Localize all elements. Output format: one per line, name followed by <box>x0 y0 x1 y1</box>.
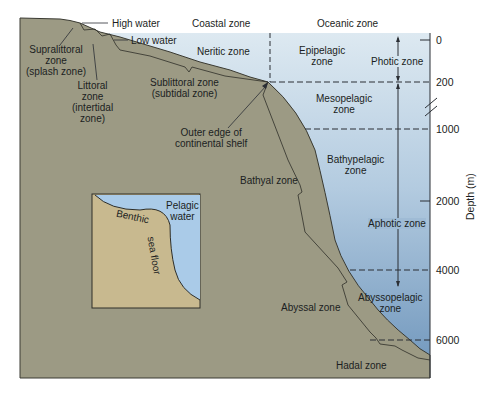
mesopelagic-label: Mesopelagic zone <box>316 93 372 115</box>
sublittoral-label: Sublittoral zone (subtidal zone) <box>150 77 219 99</box>
depth-tick-4000: 4000 <box>436 264 459 276</box>
depth-tick-2000: 2000 <box>436 195 459 207</box>
photic-zone-label: Photic zone <box>371 56 423 67</box>
epipelagic-label: Epipelagic zone <box>299 45 345 67</box>
oceanic-zone-header: Oceanic zone <box>317 18 378 29</box>
coastal-zone-header: Coastal zone <box>192 18 250 29</box>
hadal-zone-label: Hadal zone <box>336 360 387 371</box>
abyssal-zone-label: Abyssal zone <box>281 302 340 313</box>
bathypelagic-label: Bathypelagic zone <box>327 154 384 176</box>
depth-tick-200: 200 <box>436 76 454 88</box>
aphotic-zone-label: Aphotic zone <box>368 218 426 229</box>
depth-tick-1000: 1000 <box>436 123 459 135</box>
depth-axis-title: Depth (m) <box>464 173 476 220</box>
abyssopelagic-label: Abyssopelagic zone <box>358 292 422 314</box>
supralittoral-label: Supralittoral zone (splash zone) <box>26 44 86 77</box>
depth-tick-0: 0 <box>436 34 442 46</box>
depth-tick-6000: 6000 <box>436 334 459 346</box>
low-water-label: Low water <box>131 35 177 46</box>
bathyal-zone-label: Bathyal zone <box>240 175 298 186</box>
high-water-label: High water <box>112 18 160 29</box>
shelf-edge-label: Outer edge of continental shelf <box>175 127 247 149</box>
littoral-label: Littoral zone (intertidal zone) <box>72 80 113 124</box>
inset-pelagic-label: Pelagic water <box>166 200 199 222</box>
neritic-zone-label: Neritic zone <box>197 46 250 57</box>
